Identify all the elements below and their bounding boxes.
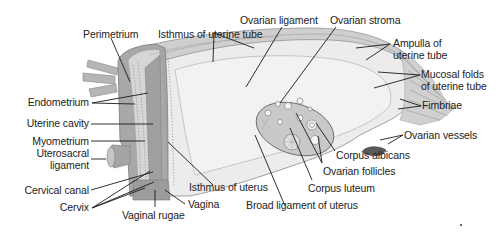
label-uterosacral-line1: Uterosacral bbox=[36, 148, 89, 159]
label-mucosal-line2: of uterine tube bbox=[421, 81, 487, 92]
stray-mark bbox=[460, 224, 462, 226]
label-corpus-luteum: Corpus luteum bbox=[308, 183, 375, 194]
label-ovarian-ligament: Ovarian ligament bbox=[240, 15, 318, 26]
label-ovarian-vessels: Ovarian vessels bbox=[404, 130, 477, 141]
label-fimbriae: Fimbriae bbox=[422, 100, 462, 111]
label-vaginal-rugae: Vaginal rugae bbox=[122, 210, 185, 221]
label-ampulla-line1: Ampulla of bbox=[393, 38, 442, 49]
label-cervical-canal: Cervical canal bbox=[24, 185, 89, 196]
label-uterine-cavity: Uterine cavity bbox=[27, 118, 89, 129]
label-cervix: Cervix bbox=[60, 202, 89, 213]
label-isthmus-uterine-tube: Isthmus of uterine tube bbox=[158, 29, 263, 40]
ligament-stubs bbox=[83, 60, 118, 97]
label-isthmus-uterus: Isthmus of uterus bbox=[189, 182, 268, 193]
label-ovarian-stroma: Ovarian stroma bbox=[330, 15, 400, 26]
anatomy-diagram: Perimetrium Isthmus of uterine tube Ovar… bbox=[0, 0, 503, 234]
label-perimetrium: Perimetrium bbox=[83, 29, 139, 40]
label-endometrium: Endometrium bbox=[28, 97, 89, 108]
label-mucosal-line1: Mucosal folds bbox=[421, 69, 484, 80]
label-ovarian-follicles: Ovarian follicles bbox=[323, 166, 395, 177]
label-vagina: Vagina bbox=[188, 199, 219, 210]
label-uterosacral-line2: ligament bbox=[50, 160, 89, 171]
label-broad-ligament: Broad ligament of uterus bbox=[246, 200, 358, 211]
label-corpus-albicans: Corpus albicans bbox=[336, 150, 410, 161]
label-ampulla-line2: uterine tube bbox=[393, 50, 447, 61]
label-myometrium: Myometrium bbox=[32, 136, 89, 147]
